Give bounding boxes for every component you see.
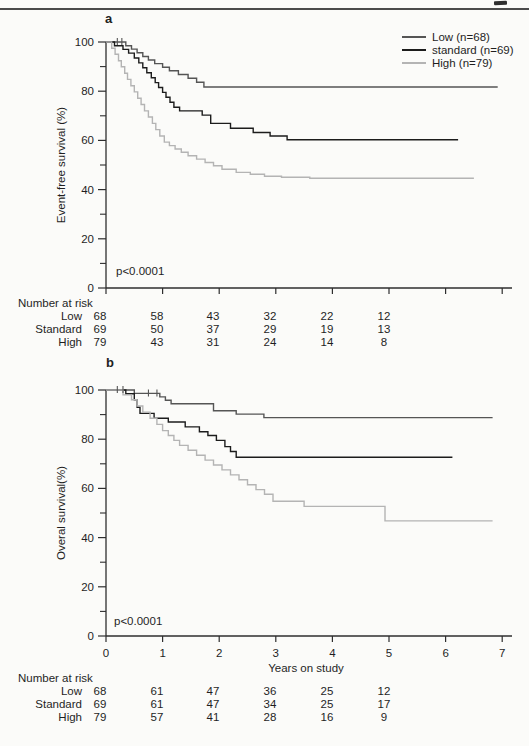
panel-a-letter: a bbox=[105, 12, 112, 25]
legend-label-standard: standard (n=69) bbox=[432, 44, 514, 56]
risk-value: 68 bbox=[78, 310, 122, 322]
risk-value: 69 bbox=[78, 698, 122, 710]
risk-value: 8 bbox=[362, 336, 406, 348]
risk-value: 31 bbox=[191, 336, 235, 348]
number-at-risk-title: Number at risk bbox=[18, 672, 93, 684]
panel-b-letter: b bbox=[106, 356, 114, 369]
panel-b-curve-low bbox=[106, 390, 493, 418]
x-tick-label: 3 bbox=[273, 647, 279, 659]
risk-value: 36 bbox=[248, 685, 292, 697]
panel-b-axes bbox=[106, 390, 512, 636]
risk-value: 79 bbox=[78, 711, 122, 723]
legend-label-high: High (n=79) bbox=[432, 57, 492, 69]
risk-value: 13 bbox=[362, 323, 406, 335]
panel-b-y-tick-labels: 100806040200 bbox=[75, 384, 94, 642]
x-tick-label: 5 bbox=[386, 647, 392, 659]
panel-a-axes bbox=[106, 42, 512, 288]
risk-value: 43 bbox=[135, 336, 179, 348]
risk-row-label-high: High bbox=[6, 711, 82, 723]
risk-row-label-low: Low bbox=[6, 310, 82, 322]
y-tick-label: 20 bbox=[81, 581, 94, 593]
panel-b-curve-high bbox=[106, 390, 493, 521]
risk-value: 58 bbox=[135, 310, 179, 322]
risk-value: 14 bbox=[305, 336, 349, 348]
risk-value: 22 bbox=[305, 310, 349, 322]
x-tick-label: 0 bbox=[103, 647, 109, 659]
risk-value: 16 bbox=[305, 711, 349, 723]
risk-value: 32 bbox=[248, 310, 292, 322]
panel-a-legend: Low (n=68) standard (n=69) High (n=79) bbox=[402, 30, 514, 69]
legend-row-standard: standard (n=69) bbox=[402, 43, 514, 56]
panel-b-x-tick-labels: 01234567 bbox=[103, 647, 506, 659]
legend-row-low: Low (n=68) bbox=[402, 30, 514, 43]
risk-row-label-low: Low bbox=[6, 685, 82, 697]
x-tick-label: 7 bbox=[499, 647, 505, 659]
risk-value: 12 bbox=[362, 685, 406, 697]
y-tick-label: 60 bbox=[81, 482, 94, 494]
figure-page: 100806040200 100806040200 01234567 a Eve… bbox=[0, 0, 529, 746]
panel-b-y-axis-label: Overal survival(%) bbox=[55, 466, 67, 560]
panel-a-ticks bbox=[98, 42, 502, 294]
panel-b-x-axis-label: Years on study bbox=[106, 662, 506, 674]
y-tick-label: 80 bbox=[81, 85, 94, 97]
risk-value: 61 bbox=[135, 685, 179, 697]
risk-value: 43 bbox=[191, 310, 235, 322]
x-tick-label: 1 bbox=[159, 647, 165, 659]
y-tick-label: 40 bbox=[81, 184, 94, 196]
risk-value: 50 bbox=[135, 323, 179, 335]
risk-value: 37 bbox=[191, 323, 235, 335]
risk-row-label-high: High bbox=[6, 336, 82, 348]
number-at-risk-title: Number at risk bbox=[18, 297, 93, 309]
x-tick-label: 6 bbox=[442, 647, 448, 659]
panel-b-curves bbox=[106, 390, 493, 521]
risk-value: 28 bbox=[248, 711, 292, 723]
risk-value: 17 bbox=[362, 698, 406, 710]
y-tick-label: 100 bbox=[75, 384, 94, 396]
panel-a-y-tick-labels: 100806040200 bbox=[75, 36, 94, 294]
risk-value: 12 bbox=[362, 310, 406, 322]
risk-value: 24 bbox=[248, 336, 292, 348]
y-tick-label: 80 bbox=[81, 433, 94, 445]
panel-a-y-axis-label: Event-free survival (%) bbox=[55, 107, 67, 223]
x-tick-label: 2 bbox=[216, 647, 222, 659]
panel-a-p-value: p<0.0001 bbox=[116, 265, 164, 277]
risk-row-label-standard: Standard bbox=[6, 323, 82, 335]
legend-line-sample-standard bbox=[402, 49, 426, 51]
risk-value: 61 bbox=[135, 698, 179, 710]
risk-value: 47 bbox=[191, 685, 235, 697]
y-tick-label: 60 bbox=[81, 134, 94, 146]
risk-value: 69 bbox=[78, 323, 122, 335]
survival-curves-canvas: 100806040200 100806040200 01234567 bbox=[0, 0, 529, 746]
panel-b-curve-standard bbox=[106, 390, 452, 457]
risk-value: 29 bbox=[248, 323, 292, 335]
legend-line-sample-low bbox=[402, 36, 426, 38]
legend-label-low: Low (n=68) bbox=[432, 31, 490, 43]
risk-value: 79 bbox=[78, 336, 122, 348]
y-tick-label: 0 bbox=[88, 630, 94, 642]
legend-line-sample-high bbox=[402, 62, 426, 64]
risk-value: 41 bbox=[191, 711, 235, 723]
y-tick-label: 40 bbox=[81, 532, 94, 544]
panel-b-p-value: p<0.0001 bbox=[114, 615, 162, 627]
risk-value: 9 bbox=[362, 711, 406, 723]
risk-value: 34 bbox=[248, 698, 292, 710]
risk-value: 25 bbox=[305, 685, 349, 697]
panel-b-ticks bbox=[98, 390, 502, 642]
risk-value: 19 bbox=[305, 323, 349, 335]
y-tick-label: 0 bbox=[88, 282, 94, 294]
risk-value: 47 bbox=[191, 698, 235, 710]
risk-value: 25 bbox=[305, 698, 349, 710]
x-tick-label: 4 bbox=[329, 647, 336, 659]
y-tick-label: 100 bbox=[75, 36, 94, 48]
risk-value: 57 bbox=[135, 711, 179, 723]
legend-row-high: High (n=79) bbox=[402, 56, 514, 69]
y-tick-label: 20 bbox=[81, 233, 94, 245]
risk-value: 68 bbox=[78, 685, 122, 697]
risk-row-label-standard: Standard bbox=[6, 698, 82, 710]
